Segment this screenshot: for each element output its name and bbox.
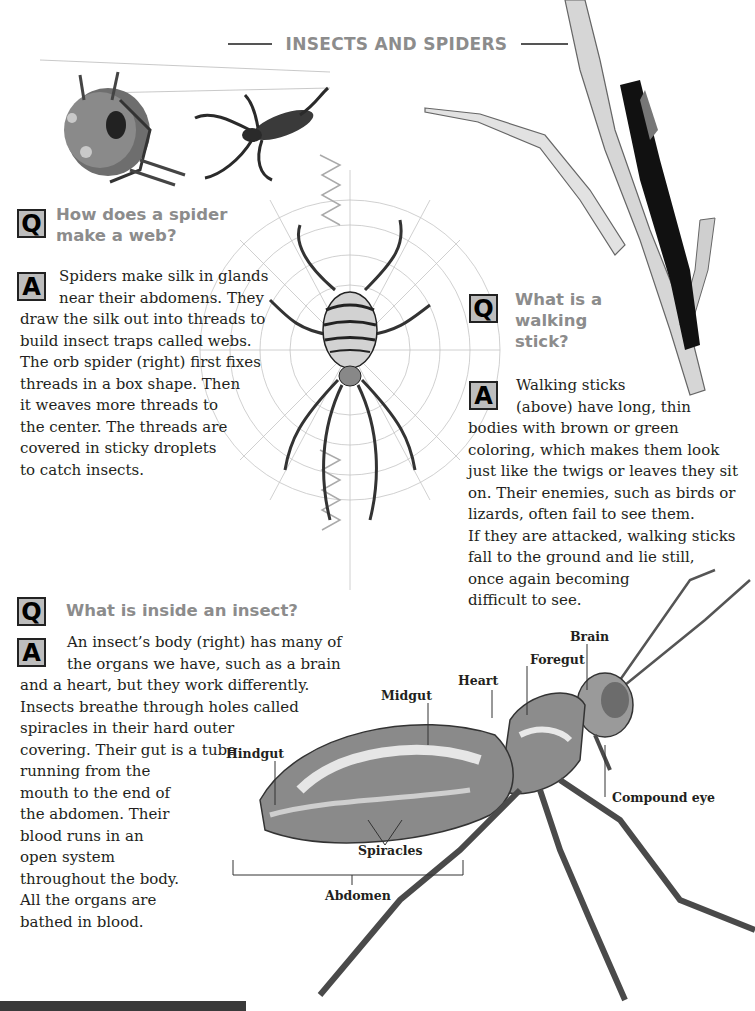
answer-text-spider-web: Spiders make silk in glands near their a… [20, 266, 268, 481]
page-title: INSECTS AND SPIDERS [286, 34, 508, 54]
question-marker: Q [17, 209, 46, 238]
answer-line: mouth to the end of [20, 783, 342, 805]
answer-line: open system [20, 847, 342, 869]
question-line: stick? [515, 331, 602, 352]
answer-line: The orb spider (right) first fixes [20, 352, 268, 374]
orb-spider-icon [270, 220, 430, 520]
question-line: What is inside an insect? [66, 600, 298, 621]
answer-line: coloring, which makes them look [468, 440, 738, 462]
answer-line: the organs we have, such as a brain [20, 654, 342, 676]
question-heading: What is a walking stick? [515, 289, 602, 352]
answer-line: on. Their enemies, such as birds or [468, 483, 738, 505]
walking-stick-insect-icon [620, 80, 700, 350]
answer-line: near their abdomens. They [20, 288, 268, 310]
insect-thorax-icon [500, 693, 585, 794]
title-rule-left [228, 43, 272, 45]
question-marker: Q [17, 597, 46, 626]
insect-head-icon [577, 673, 633, 737]
answer-text-inside-insect: An insect’s body (right) has many of the… [20, 632, 342, 933]
question-heading: How does a spider make a web? [56, 204, 227, 246]
answer-line: An insect’s body (right) has many of [20, 632, 342, 654]
label-spiracles: Spiracles [358, 843, 423, 858]
label-midgut: Midgut [381, 688, 432, 703]
bottom-bar [0, 1001, 246, 1011]
answer-line: the abdomen. Their [20, 804, 342, 826]
answer-line: Insects breathe through holes called [20, 697, 342, 719]
question-line: How does a spider [56, 204, 227, 225]
answer-line: blood runs in an [20, 826, 342, 848]
answer-line: covering. Their gut is a tube [20, 740, 342, 762]
crab-spider-icon [64, 72, 185, 185]
label-hindgut: Hindgut [226, 746, 284, 761]
answer-line: bodies with brown or green [468, 418, 738, 440]
label-abdomen: Abdomen [325, 888, 391, 903]
answer-line: it weaves more threads to [20, 395, 268, 417]
answer-line: threads in a box shape. Then [20, 374, 268, 396]
answer-line: covered in sticky droplets [20, 438, 268, 460]
label-foregut: Foregut [530, 652, 585, 667]
page-title-bar: INSECTS AND SPIDERS [228, 31, 568, 57]
answer-line: Walking sticks [468, 375, 738, 397]
question-line: make a web? [56, 225, 227, 246]
label-heart: Heart [458, 673, 498, 688]
answer-line: All the organs are [20, 890, 342, 912]
answer-line: fall to the ground and lie still, [468, 547, 738, 569]
answer-line: once again becoming [468, 569, 738, 591]
answer-line: and a heart, but they work differently. [20, 675, 342, 697]
question-heading: What is inside an insect? [66, 600, 298, 621]
label-compound-eye: Compound eye [612, 790, 715, 805]
answer-line: lizards, often fail to see them. [468, 504, 738, 526]
answer-line: Spiders make silk in glands [20, 266, 268, 288]
question-line: What is a [515, 289, 602, 310]
question-marker: Q [469, 294, 498, 323]
answer-line: draw the silk out into threads to [20, 309, 268, 331]
answer-line: running from the [20, 761, 342, 783]
thin-spider-icon [195, 88, 328, 180]
answer-line: spiracles in their hard outer [20, 718, 342, 740]
question-line: walking [515, 310, 602, 331]
answer-line: bathed in blood. [20, 912, 342, 934]
answer-line: If they are attacked, walking sticks [468, 526, 738, 548]
title-rule-right [521, 43, 568, 45]
answer-line: build insect traps called webs. [20, 331, 268, 353]
answer-line: difficult to see. [468, 590, 738, 612]
answer-text-walking-stick: Walking sticks (above) have long, thin b… [468, 375, 738, 612]
answer-line: the center. The threads are [20, 417, 268, 439]
answer-line: throughout the body. [20, 869, 342, 891]
answer-line: just like the twigs or leaves they sit [468, 461, 738, 483]
answer-line: to catch insects. [20, 460, 268, 482]
answer-line: (above) have long, thin [468, 397, 738, 419]
label-brain: Brain [570, 629, 609, 644]
